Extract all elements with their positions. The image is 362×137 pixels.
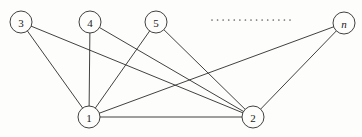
ellipsis-dot (278, 19, 280, 21)
ellipsis-dot (228, 19, 230, 21)
node-4[interactable]: 4 (79, 11, 101, 33)
edges-group (27, 26, 336, 117)
ellipsis-dot (250, 19, 252, 21)
node-n[interactable]: n (333, 12, 355, 34)
node-label-1: 1 (86, 112, 92, 124)
edge-4-2 (100, 28, 244, 112)
ellipsis-dot (256, 19, 258, 21)
ellipsis-dot (267, 19, 269, 21)
node-label-2: 2 (250, 112, 256, 124)
node-label-3: 3 (18, 17, 24, 29)
ellipsis-dot (211, 19, 213, 21)
graph-canvas: 345n12 (0, 0, 362, 137)
edge-4-1 (89, 33, 90, 106)
ellipsis-dot (217, 19, 219, 21)
node-5[interactable]: 5 (145, 11, 167, 33)
node-label-n: n (341, 18, 347, 30)
node-3[interactable]: 3 (10, 11, 32, 33)
ellipsis-dot (222, 19, 224, 21)
node-label-5: 5 (153, 17, 159, 29)
ellipsis-dot (239, 19, 241, 21)
ellipsis-dots (211, 19, 291, 21)
graph-figure: 345n12 (0, 0, 362, 137)
ellipsis-dot (245, 19, 247, 21)
ellipsis-dot (289, 19, 291, 21)
edge-3-1 (27, 31, 82, 108)
edge-3-2 (31, 26, 243, 113)
nodes-group: 345n12 (10, 11, 355, 128)
ellipsis-dot (272, 19, 274, 21)
ellipsis-dot (233, 19, 235, 21)
edge-5-1 (95, 31, 149, 108)
node-1[interactable]: 1 (78, 106, 100, 128)
node-2[interactable]: 2 (242, 106, 264, 128)
ellipsis-dot (261, 19, 263, 21)
node-label-4: 4 (87, 17, 93, 29)
ellipsis-dot (284, 19, 286, 21)
edge-n-2 (261, 31, 337, 109)
